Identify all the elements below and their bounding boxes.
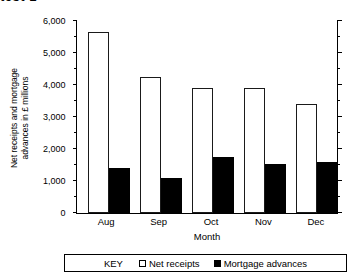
bar-aug-mortgage-advances: [109, 168, 130, 213]
legend-swatch-mortgage-advances-icon: [214, 260, 221, 267]
bar-aug-net-receipts: [88, 32, 109, 213]
x-axis-label-aug: Aug: [76, 216, 128, 227]
legend-key-label: KEY: [104, 258, 123, 269]
bar-nov-mortgage-advances: [265, 164, 286, 213]
bar-dec-net-receipts: [296, 104, 317, 213]
y-axis-minor-tick-right: [337, 100, 340, 101]
y-axis-tick-label: 2,000: [43, 144, 66, 154]
x-axis-labels: AugSepOctNovDec: [76, 216, 338, 227]
x-axis-label-oct: Oct: [181, 216, 233, 227]
bar-group: [233, 21, 285, 213]
y-axis-minor-tick-right: [337, 36, 340, 37]
y-axis-tick-label: 5,000: [43, 48, 66, 58]
bar-group: [129, 21, 181, 213]
bar-group: [285, 21, 337, 213]
legend-item-mortgage-advances: Mortgage advances: [214, 258, 307, 269]
bar-nov-net-receipts: [244, 88, 265, 213]
x-axis-title: Month: [76, 231, 338, 242]
legend-item-net-receipts: Net receipts: [139, 258, 200, 269]
y-axis-tick-label: 0: [60, 208, 65, 218]
legend-box: KEY Net receipts Mortgage advances: [64, 254, 347, 272]
bar-oct-mortgage-advances: [213, 157, 234, 213]
bar-group: [181, 21, 233, 213]
plot-area: 01,0002,0003,0004,0005,0006,000: [76, 21, 338, 214]
y-axis-minor-tick-right: [337, 132, 340, 133]
legend-label-mortgage-advances: Mortgage advances: [224, 258, 307, 269]
bar-sep-net-receipts: [140, 77, 161, 213]
bar-groups: [77, 21, 337, 213]
y-axis-tick-label: 1,000: [43, 176, 66, 186]
bar-oct-net-receipts: [192, 88, 213, 213]
y-axis-title-line2: advances in £ millions: [20, 68, 31, 168]
y-axis-tick-right: [337, 116, 342, 117]
y-axis-tick-right: [337, 148, 342, 149]
y-axis-tick-label: 3,000: [43, 112, 66, 122]
y-axis-minor-tick-right: [337, 68, 340, 69]
y-axis-tick-right: [337, 52, 342, 53]
x-axis-label-dec: Dec: [286, 216, 338, 227]
bar-chart-figure: test 1 Net receipts and mortgage advance…: [0, 0, 359, 279]
page-top-artifact: test 1: [0, 0, 44, 4]
x-axis-label-sep: Sep: [128, 216, 180, 227]
y-axis-tick-label: 4,000: [43, 80, 66, 90]
y-axis-title-line1: Net receipts and mortgage: [9, 68, 20, 168]
legend-swatch-net-receipts-icon: [139, 260, 146, 267]
x-axis-label-nov: Nov: [233, 216, 285, 227]
bar-dec-mortgage-advances: [317, 162, 338, 213]
y-axis-tick-label: 6,000: [43, 16, 66, 26]
bar-sep-mortgage-advances: [161, 178, 182, 213]
y-axis-title: Net receipts and mortgage advances in £ …: [6, 18, 34, 218]
page-top-artifact-text: test 1: [0, 0, 44, 3]
bar-group: [77, 21, 129, 213]
y-axis-tick-right: [337, 84, 342, 85]
legend-label-net-receipts: Net receipts: [149, 258, 200, 269]
y-axis-tick-right: [337, 20, 342, 21]
